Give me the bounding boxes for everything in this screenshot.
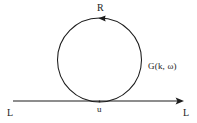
external-line-right-label: L <box>183 108 189 118</box>
vertex-point <box>99 101 101 103</box>
feynman-diagram-figure: R G(k, ω) u L L <box>0 0 197 123</box>
external-line-left-label: L <box>7 108 13 118</box>
loop-circle <box>58 18 142 102</box>
vertex-label: u <box>97 105 102 114</box>
loop-direction-arrowhead <box>98 16 105 22</box>
loop-momentum-label: R <box>97 3 104 13</box>
propagator-label: G(k, ω) <box>148 62 177 71</box>
